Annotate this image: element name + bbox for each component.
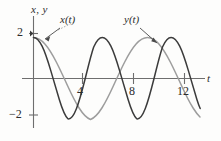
x-tick-label-4: 4: [77, 85, 83, 97]
x-tick-label-12: 12: [177, 85, 189, 97]
series-label-y-of-t: y(t): [124, 14, 139, 25]
x-label-leader-arrow: [45, 28, 60, 39]
waveform-figure: x, y t x(t) y(t) 2 −2 4 8 12: [0, 0, 221, 141]
horizontal-axis-label: t: [207, 73, 210, 84]
y-tick-label-negative-2: −2: [9, 108, 22, 120]
x-tick-label-8: 8: [129, 85, 135, 97]
series-label-x-of-t: x(t): [60, 14, 75, 25]
plot-canvas: [0, 0, 221, 141]
y-tick-label-2: 2: [17, 26, 23, 38]
vertical-axis-label: x, y: [31, 4, 48, 15]
